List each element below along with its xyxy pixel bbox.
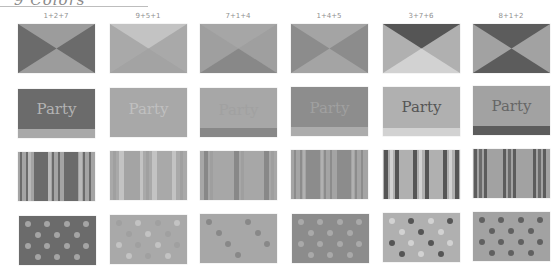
party-text: Party [473, 97, 550, 115]
dots-swatch-4[interactable] [292, 214, 369, 263]
party-swatch-4[interactable]: Party [291, 87, 368, 136]
column-label-2: 9+5+1 [109, 12, 187, 20]
dots-swatch-2[interactable] [110, 215, 187, 264]
party-text: Party [291, 99, 368, 117]
party-text: Party [200, 101, 277, 119]
stripes-swatch-6[interactable] [473, 149, 550, 198]
bowtie-swatch-4[interactable] [291, 24, 368, 73]
stripes-swatch-4[interactable] [291, 150, 368, 199]
column-label-4: 1+4+5 [290, 12, 368, 20]
bowtie-swatch-1[interactable] [18, 24, 95, 73]
stripes-swatch-5[interactable] [383, 150, 460, 199]
stripes-swatch-2[interactable] [110, 151, 187, 200]
party-swatch-3[interactable]: Party [200, 88, 277, 137]
title-divider [0, 6, 148, 7]
dots-swatch-6[interactable] [473, 212, 550, 261]
party-swatch-5[interactable]: Party [383, 87, 460, 136]
party-text: Party [18, 100, 95, 118]
column-label-5: 3+7+6 [382, 12, 460, 20]
party-swatch-1[interactable]: Party [18, 89, 95, 138]
stripes-swatch-1[interactable] [18, 152, 95, 201]
bowtie-swatch-5[interactable] [383, 24, 460, 73]
party-text: Party [110, 100, 187, 118]
party-text: Party [383, 98, 460, 116]
bowtie-swatch-3[interactable] [200, 24, 277, 73]
dots-swatch-1[interactable] [19, 216, 96, 265]
party-swatch-6[interactable]: Party [473, 86, 550, 135]
column-label-3: 7+1+4 [199, 12, 277, 20]
bowtie-swatch-6[interactable] [473, 24, 550, 73]
column-label-1: 1+2+7 [17, 12, 95, 20]
dots-swatch-3[interactable] [200, 214, 277, 263]
dots-swatch-5[interactable] [383, 213, 460, 262]
party-swatch-2[interactable]: Party [110, 88, 187, 137]
column-label-6: 8+1+2 [472, 12, 550, 20]
stripes-swatch-3[interactable] [200, 151, 277, 200]
page-title: 9 Colors [14, 0, 86, 9]
bowtie-swatch-2[interactable] [110, 24, 187, 73]
